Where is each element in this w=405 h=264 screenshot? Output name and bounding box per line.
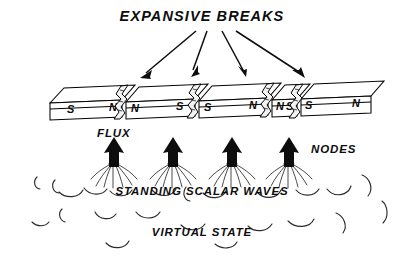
pole-label-s2-right: S [176, 100, 184, 112]
diagram-title: EXPANSIVE BREAKS [120, 8, 285, 24]
pole-label-s3-left: S [204, 101, 212, 113]
pole-label-s3-right: N [249, 99, 258, 111]
title-arrow-group [140, 31, 305, 79]
bar-magnet: S N N S S N N S [50, 81, 384, 120]
pole-label-s5-left: S [305, 99, 313, 111]
figure-canvas: EXPANSIVE BREAKS S N [0, 0, 405, 264]
nodes-label: NODES [311, 143, 356, 155]
virtual-state-label: VIRTUAL STATE [152, 226, 252, 238]
pole-label-s5-right: N [352, 97, 361, 109]
flux-node-group [91, 137, 312, 188]
flux-node-1 [91, 137, 137, 188]
pole-label-s4-left: N [276, 100, 285, 112]
standing-scalar-waves-label: STANDING SCALAR WAVES [115, 185, 288, 197]
flux-node-4 [266, 137, 312, 188]
magnet-segment-5: S N [301, 81, 384, 116]
flux-node-3 [209, 137, 255, 188]
title-arrow-1 [140, 31, 196, 79]
expansive-breaks-diagram: EXPANSIVE BREAKS S N [0, 0, 405, 264]
title-arrow-2 [191, 31, 207, 77]
pole-label-s2-left: N [131, 102, 140, 114]
flux-node-2 [150, 137, 196, 188]
pole-label-s1-left: S [67, 103, 75, 115]
title-arrow-3 [222, 31, 247, 77]
